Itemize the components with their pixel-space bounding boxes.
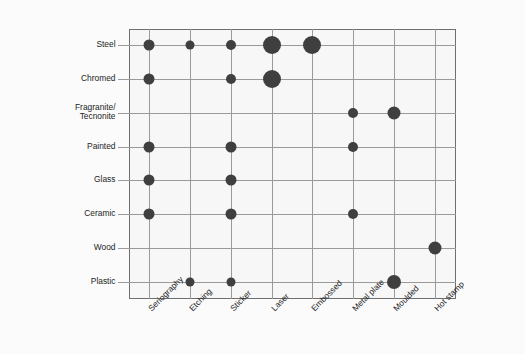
data-bubble: [387, 275, 401, 289]
y-axis-tick-label: Plastic: [26, 277, 116, 287]
gridline-vertical: [312, 29, 313, 299]
data-bubble: [226, 74, 236, 84]
data-bubble: [348, 142, 358, 152]
data-bubble: [429, 241, 442, 254]
y-axis-tick-label: Steel: [26, 41, 116, 51]
gridline-horizontal: [129, 79, 456, 80]
y-axis-tick-label: Ceramic: [26, 209, 116, 219]
bubble-matrix-chart: SteelChromedFragranite/ TecnonitePainted…: [0, 0, 525, 354]
gridline-horizontal: [129, 180, 456, 181]
y-axis-tick-mark: [118, 147, 129, 148]
data-bubble: [226, 277, 235, 286]
y-axis-tick-mark: [118, 79, 129, 80]
data-bubble: [143, 141, 154, 152]
data-bubble: [388, 106, 401, 119]
y-axis-tick-label: Fragranite/ Tecnonite: [26, 103, 116, 122]
data-bubble: [225, 175, 236, 186]
y-axis-tick-label: Painted: [26, 142, 116, 152]
data-bubble: [348, 108, 358, 118]
y-axis-tick-label: Wood: [26, 243, 116, 253]
gridline-horizontal: [129, 248, 456, 249]
y-axis-tick-mark: [118, 214, 129, 215]
y-axis-tick-mark: [118, 45, 129, 46]
data-bubble: [263, 36, 281, 54]
data-bubble: [226, 40, 236, 50]
gridline-vertical: [435, 29, 436, 299]
gridline-horizontal: [129, 45, 456, 46]
gridline-horizontal: [129, 113, 456, 114]
y-axis-tick-label: Glass: [26, 176, 116, 186]
gridline-vertical: [353, 29, 354, 299]
y-axis-tick-label: Chromed: [26, 74, 116, 84]
data-bubble: [185, 277, 194, 286]
gridline-vertical: [190, 29, 191, 299]
data-bubble: [143, 209, 154, 220]
data-bubble: [225, 209, 236, 220]
gridline-vertical: [149, 29, 150, 299]
gridline-horizontal: [129, 214, 456, 215]
y-axis-tick-mark: [118, 113, 129, 114]
data-bubble: [185, 41, 194, 50]
y-axis-tick-mark: [118, 282, 129, 283]
data-bubble: [225, 141, 236, 152]
data-bubble: [303, 36, 321, 54]
data-bubble: [143, 40, 154, 51]
gridline-vertical: [394, 29, 395, 299]
y-axis-tick-mark: [118, 180, 129, 181]
data-bubble: [348, 209, 358, 219]
plot-area: [129, 29, 456, 299]
gridline-vertical: [272, 29, 273, 299]
gridline-vertical: [231, 29, 232, 299]
data-bubble: [263, 70, 281, 88]
y-axis-tick-mark: [118, 248, 129, 249]
data-bubble: [143, 74, 154, 85]
gridline-horizontal: [129, 147, 456, 148]
data-bubble: [143, 175, 154, 186]
